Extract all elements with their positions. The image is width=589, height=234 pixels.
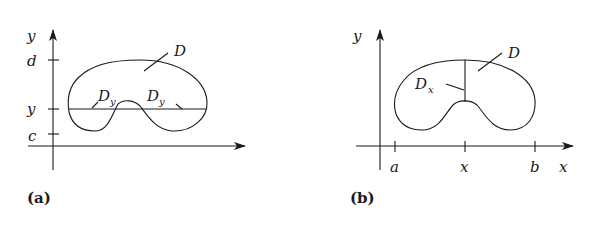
panel-b: y a x b x D D x (b) — [350, 27, 573, 207]
slice-label-right-sub: y — [158, 96, 165, 107]
slice-label-sub: x — [428, 84, 434, 95]
figure: y d y c D D y D y (a) y a x b x — [0, 0, 589, 234]
caption-b: (b) — [350, 189, 375, 207]
region-d — [68, 60, 207, 131]
slice-label: D — [414, 75, 427, 93]
tick-label-b: b — [530, 158, 540, 176]
tick-label-c: c — [28, 127, 37, 145]
slice-leader-right — [176, 104, 182, 109]
y-axis-label: y — [352, 27, 362, 45]
x-axis-label: x — [559, 158, 568, 176]
panel-a: y d y c D D y D y (a) — [26, 27, 245, 207]
region-label: D — [507, 44, 520, 62]
tick-label-a: a — [390, 158, 399, 176]
slice-label-left-sub: y — [109, 96, 116, 107]
region-label: D — [173, 42, 186, 60]
region-leader — [478, 53, 502, 71]
slice-label-right: D — [146, 87, 159, 105]
y-axis-label: y — [26, 27, 36, 45]
slice-label-left: D — [97, 87, 110, 105]
caption-a: (a) — [27, 189, 51, 207]
region-leader — [144, 53, 168, 71]
slice-leader — [446, 84, 464, 90]
tick-label-y: y — [26, 100, 36, 118]
tick-label-x: x — [460, 158, 469, 176]
tick-label-d: d — [27, 52, 37, 70]
